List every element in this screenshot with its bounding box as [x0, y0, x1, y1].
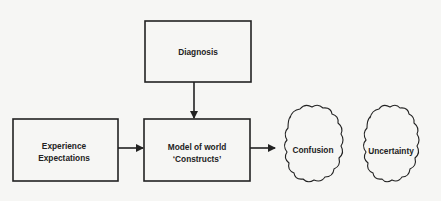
confusion-label: Confusion — [292, 145, 333, 155]
experience-label-line2: Expectations — [38, 153, 90, 163]
cloud-shape — [364, 105, 420, 182]
confusion-node: Confusion — [285, 105, 344, 182]
cloud-shape — [285, 105, 344, 182]
diagnosis-label: Diagnosis — [178, 47, 218, 57]
uncertainty-label: Uncertainty — [368, 146, 414, 156]
model-label-line2: ‘Constructs’ — [173, 154, 221, 164]
model-node: Model of world ‘Constructs’ — [144, 119, 250, 181]
diagram-canvas: Diagnosis Experience Expectations Model … — [0, 0, 441, 201]
uncertainty-node: Uncertainty — [364, 105, 420, 182]
model-label-line1: Model of world — [168, 142, 227, 152]
diagnosis-node: Diagnosis — [145, 21, 251, 82]
experience-label-line1: Experience — [42, 141, 87, 151]
experience-node: Experience Expectations — [13, 119, 118, 181]
